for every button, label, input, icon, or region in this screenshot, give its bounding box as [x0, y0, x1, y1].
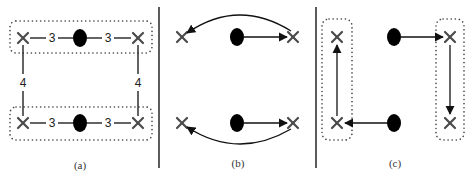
figure-canvas: 3 3 4 4 3 3 (a)	[0, 0, 475, 178]
edge-weight-label: 3	[49, 116, 56, 130]
node-dot	[387, 114, 401, 132]
edge-weight-label: 3	[105, 116, 112, 130]
top-row: 3 3	[18, 29, 143, 47]
x-mark-icon	[177, 118, 187, 128]
x-mark-icon	[18, 33, 28, 43]
node-dot	[230, 28, 244, 46]
panel-caption: (b)	[232, 157, 245, 170]
panel-caption: (a)	[74, 159, 87, 172]
x-mark-icon	[288, 118, 298, 128]
x-mark-icon	[332, 32, 342, 42]
x-mark-icon	[18, 118, 28, 128]
x-mark-icon	[133, 33, 143, 43]
panel-c: (c)	[322, 19, 464, 170]
node-dot	[73, 29, 87, 47]
x-mark-icon	[133, 118, 143, 128]
edge-weight-label: 4	[20, 76, 27, 90]
x-mark-icon	[445, 118, 455, 128]
node-dot	[230, 114, 244, 132]
panel-b: (b)	[177, 15, 298, 170]
node-dot	[387, 28, 401, 46]
panel-caption: (c)	[389, 157, 402, 170]
x-mark-icon	[288, 32, 298, 42]
panel-a: 3 3 4 4 3 3 (a)	[10, 21, 152, 172]
edge-weight-label: 3	[49, 31, 56, 45]
x-mark-icon	[177, 32, 187, 42]
edge-weight-label: 4	[135, 76, 142, 90]
x-mark-icon	[332, 118, 342, 128]
edge-weight-label: 3	[105, 31, 112, 45]
bottom-row: 3 3	[18, 114, 143, 132]
x-mark-icon	[445, 32, 455, 42]
node-dot	[73, 114, 87, 132]
